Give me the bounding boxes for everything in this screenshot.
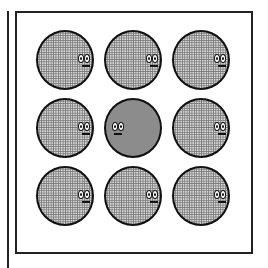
ball-cell[interactable] <box>36 30 94 90</box>
ball-cell[interactable] <box>104 166 162 226</box>
face-icon <box>78 190 92 204</box>
ball-cell[interactable] <box>172 98 230 158</box>
eye-icon <box>152 190 158 199</box>
selected-ball-cell[interactable] <box>104 98 162 158</box>
mouth-icon <box>218 65 226 67</box>
face-icon <box>78 54 92 68</box>
mouth-icon <box>218 133 226 135</box>
mouth-icon <box>150 201 158 203</box>
ball-cell[interactable] <box>104 30 162 90</box>
eye-icon <box>220 54 226 63</box>
mouth-icon <box>82 65 90 67</box>
eye-icon <box>118 122 124 131</box>
eye-icon <box>152 54 158 63</box>
mouth-icon <box>150 65 158 67</box>
mouth-icon <box>114 133 122 135</box>
ball-cell[interactable] <box>172 166 230 226</box>
ball-cell[interactable] <box>36 166 94 226</box>
face-icon <box>214 54 228 68</box>
mouth-icon <box>82 201 90 203</box>
face-icon <box>214 190 228 204</box>
face-icon <box>146 190 160 204</box>
ball-cell[interactable] <box>172 30 230 90</box>
eye-icon <box>84 54 90 63</box>
face-icon <box>146 54 160 68</box>
mouth-icon <box>82 133 90 135</box>
eye-icon <box>220 190 226 199</box>
eye-icon <box>84 122 90 131</box>
eye-icon <box>220 122 226 131</box>
mouth-icon <box>218 201 226 203</box>
ball-cell[interactable] <box>36 98 94 158</box>
eye-icon <box>84 190 90 199</box>
face-icon <box>214 122 228 136</box>
left-divider <box>7 11 9 268</box>
face-icon <box>78 122 92 136</box>
face-icon <box>112 122 126 136</box>
